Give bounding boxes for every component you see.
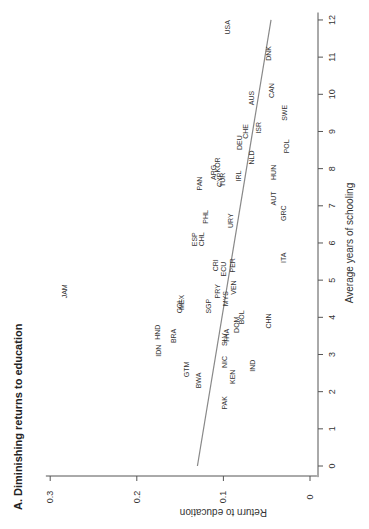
y-tick-label: 0.3 [45,491,55,504]
country-label: POL [283,139,290,153]
country-label: BWA [195,372,202,388]
x-tick-label: 1 [327,426,337,431]
country-label: SLV [221,333,228,346]
country-label: NIC [221,356,228,368]
fit-line [197,20,271,466]
x-tick-label: 8 [327,166,337,171]
chart-title: A. Diminishing returns to education [12,323,24,510]
x-tick-label: 0 [327,463,337,468]
country-label: GRC [280,205,287,221]
country-label: USA [224,20,231,35]
country-label: AUS [248,90,255,105]
country-label: ITA [280,252,287,263]
y-tick-label: 0.2 [132,491,142,504]
x-tick-label: 11 [327,52,337,61]
y-tick-label: 0 [305,494,315,499]
country-label: CAN [268,83,275,98]
country-label: ECU [220,262,227,277]
scatter-chart: A. Diminishing returns to education 00.1… [0,0,369,529]
country-label: VEN [230,280,237,294]
return-axis: 00.10.20.3Return to education [45,476,317,518]
country-label: DOM [233,316,240,333]
country-label: PRY [214,284,221,299]
x-tick-label: 9 [327,129,337,134]
country-labels: USADNKCANAUSSWEISRCHEDEUPOLNLDKORARGHUNI… [61,20,290,410]
x-tick-label: 12 [327,15,337,25]
title-text: A. Diminishing returns to education [12,323,24,510]
country-label: DEU [236,135,243,150]
country-label: URY [227,213,234,228]
country-label: BRA [170,328,177,343]
country-label: IDN [155,345,162,357]
country-label: ISR [255,122,262,134]
country-label: CHN [265,313,272,328]
country-label: SWE [281,105,288,121]
x-tick-label: 10 [327,89,337,99]
x-tick-label: 5 [327,278,337,283]
x-tick-label: 7 [327,203,337,208]
country-label: IND [249,360,256,372]
country-label: PER [229,258,236,272]
country-label: KEN [229,370,236,384]
country-label: TUR [219,173,226,187]
country-label: MYS [222,291,229,307]
country-label: IRL [235,171,242,182]
y-axis-title: Return to education [180,507,267,518]
country-label: HUN [270,165,277,180]
y-tick-label: 0.1 [218,491,228,504]
x-tick-label: 2 [327,389,337,394]
country-label: PAK [221,396,228,410]
x-axis-title: Average years of schooling [344,183,355,303]
country-label: GTM [183,361,190,377]
country-label: NLD [248,150,255,164]
country-label: CRI [212,259,219,271]
x-tick-label: 3 [327,352,337,357]
country-label: PHL [202,210,209,224]
country-label: PAN [196,177,203,191]
country-label: CHL [198,232,205,246]
country-label: HND [154,325,161,340]
country-label: JAM [61,284,68,298]
schooling-axis: 0123456789101112Average years of schooli… [318,13,355,478]
country-label: AUT [270,191,277,206]
x-tick-label: 6 [327,240,337,245]
country-label: COL [176,299,183,314]
country-label: SGP [205,298,212,313]
country-label: DNK [265,46,272,61]
x-tick-label: 4 [327,315,337,320]
